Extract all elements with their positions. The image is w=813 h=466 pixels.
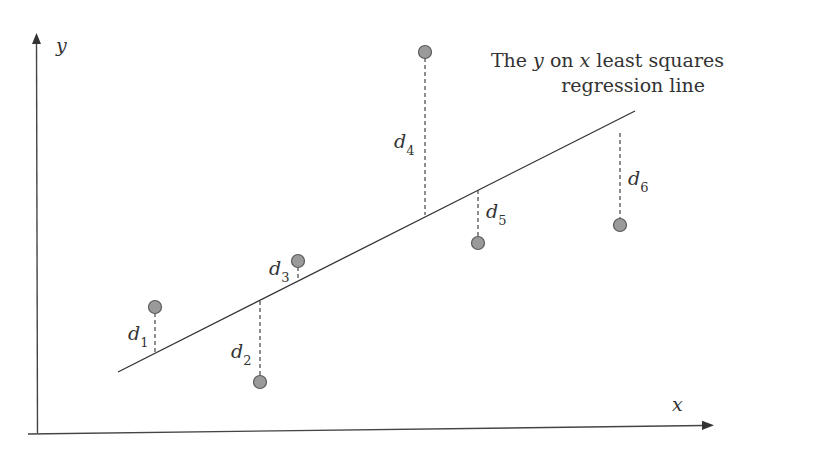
regression-annotation: The y on x least squares regression line (491, 49, 724, 96)
data-points (149, 46, 627, 389)
label-d2: d2 (231, 340, 251, 368)
y-axis-arrow-icon (32, 33, 41, 44)
label-d5: d5 (486, 200, 506, 228)
y-axis (32, 33, 41, 433)
data-point-1 (149, 301, 162, 314)
residuals (155, 58, 620, 376)
label-d4: d4 (394, 130, 414, 158)
data-point-5 (472, 237, 485, 250)
x-axis-label: x (672, 393, 683, 415)
data-point-4 (419, 46, 432, 59)
annotation-line-2: regression line (561, 74, 705, 96)
label-d1: d1 (128, 322, 148, 350)
label-d3: d3 (269, 257, 289, 285)
y-axis-label: y (55, 34, 67, 56)
data-point-3 (292, 255, 305, 268)
annotation-line-1: The y on x least squares (491, 49, 724, 71)
regression-diagram: y x d1 d2 d3 d4 d5 d6 The y on x least s… (0, 0, 813, 466)
data-point-2 (254, 376, 267, 389)
x-axis (28, 421, 714, 434)
residual-labels: d1 d2 d3 d4 d5 d6 (128, 130, 648, 368)
data-point-6 (614, 219, 627, 232)
regression-line (118, 111, 635, 372)
x-axis-arrow-icon (702, 421, 714, 430)
label-d6: d6 (628, 167, 648, 195)
